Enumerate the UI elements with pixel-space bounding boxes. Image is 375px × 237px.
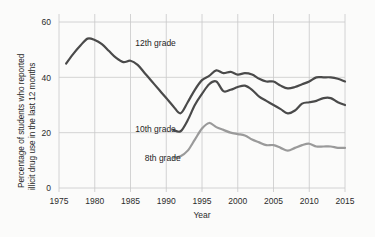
x-tick-label-2015: 2015	[336, 196, 355, 206]
x-tick-label-1980: 1980	[85, 196, 104, 206]
y-tick-label-60: 60	[42, 17, 52, 27]
x-tick-label-1995: 1995	[193, 196, 212, 206]
x-tick-label-2010: 2010	[300, 196, 319, 206]
chart-container: 0204060 19751980198519901995200020052010…	[0, 0, 375, 237]
y-tick-label-0: 0	[46, 183, 51, 193]
x-axis-title: Year	[193, 210, 210, 220]
y-axis-title-line2: illicit drug use in the last 12 months	[28, 63, 37, 190]
x-tick-label-1975: 1975	[50, 196, 69, 206]
x-axis-tick-labels: 197519801985199019952000200520102015	[50, 196, 355, 206]
x-tick-label-1985: 1985	[121, 196, 140, 206]
series-label-12th-grade: 12th grade	[135, 38, 176, 48]
series-label-8th-grade: 8th grade	[145, 153, 181, 163]
drug-use-line-chart: 0204060 19751980198519901995200020052010…	[0, 0, 375, 237]
y-tick-label-40: 40	[42, 73, 52, 83]
y-axis-title-line1: Percentage of students who reported	[17, 53, 26, 188]
x-tick-label-1990: 1990	[157, 196, 176, 206]
y-tick-label-20: 20	[42, 128, 52, 138]
x-tick-label-2005: 2005	[264, 196, 283, 206]
x-tick-label-2000: 2000	[228, 196, 247, 206]
series-label-10th-grade: 10th grade	[135, 124, 176, 134]
